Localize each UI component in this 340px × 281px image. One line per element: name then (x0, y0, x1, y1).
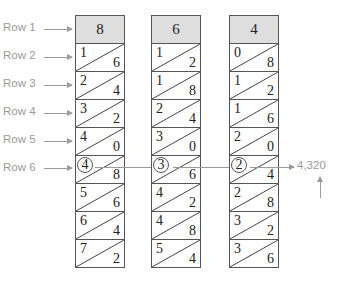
rod-cell: 08 (230, 44, 278, 72)
row-1-arrow-icon (44, 29, 72, 30)
rod-cell: 48 (152, 212, 200, 240)
ones-digit: 0 (189, 139, 196, 155)
circled-digit: 4 (77, 157, 93, 173)
tens-digit: 7 (80, 241, 87, 257)
tens-digit: 5 (156, 241, 163, 257)
ones-digit: 4 (267, 167, 274, 183)
tens-digit: 1 (156, 73, 163, 89)
tens-digit: 4 (80, 129, 87, 145)
row-6-reading-line (95, 167, 151, 168)
rod-cell: 24 (76, 72, 124, 100)
tens-digit: 3 (156, 157, 169, 173)
rod-cell: 36 (230, 240, 278, 267)
tens-digit: 3 (234, 241, 241, 257)
ones-digit: 6 (113, 195, 120, 211)
ones-digit: 4 (113, 223, 120, 239)
tens-digit: 4 (80, 157, 93, 173)
tens-digit: 1 (156, 45, 163, 61)
ones-digit: 8 (267, 195, 274, 211)
ones-digit: 6 (189, 167, 196, 183)
result-arrow-icon (250, 167, 294, 168)
row-label-6: Row 6 (3, 161, 36, 173)
ones-digit: 2 (113, 111, 120, 127)
circled-digit: 2 (231, 157, 247, 173)
rod-cell: 12 (152, 44, 200, 72)
ones-digit: 6 (267, 111, 274, 127)
rod-cell: 54 (152, 240, 200, 267)
ones-digit: 8 (267, 55, 274, 71)
ones-digit: 2 (267, 223, 274, 239)
rod-cell: 30 (152, 128, 200, 156)
row-2-arrow-icon (44, 57, 72, 58)
rod-cell: 28 (230, 184, 278, 212)
rod-cell: 20 (230, 128, 278, 156)
row-3-arrow-icon (44, 85, 72, 86)
row-6-reading-line (173, 167, 229, 168)
rod-cell-highlighted: 36 (152, 156, 200, 184)
rod-cell: 18 (152, 72, 200, 100)
row-6-arrow-icon (44, 168, 72, 169)
tens-digit: 1 (234, 73, 241, 89)
ones-digit: 8 (189, 83, 196, 99)
row-label-3: Row 3 (3, 77, 36, 89)
rod-cell: 12 (230, 72, 278, 100)
ones-digit: 0 (113, 139, 120, 155)
tens-digit: 0 (234, 45, 241, 61)
ones-digit: 8 (113, 167, 120, 183)
tens-digit: 1 (80, 45, 87, 61)
row-5-arrow-icon (44, 141, 72, 142)
napier-rod-4: 4 08 12 16 20 24 28 32 36 (229, 15, 279, 268)
tens-digit: 2 (156, 101, 163, 117)
tens-digit: 3 (234, 213, 241, 229)
tens-digit: 3 (156, 129, 163, 145)
ones-digit: 8 (189, 223, 196, 239)
rod-cell: 42 (152, 184, 200, 212)
tens-digit: 3 (80, 101, 87, 117)
ones-digit: 2 (113, 251, 120, 267)
rod-header: 4 (230, 16, 278, 44)
tens-digit: 1 (234, 101, 241, 117)
rod-header: 8 (76, 16, 124, 44)
ones-digit: 6 (267, 251, 274, 267)
ones-digit: 4 (189, 111, 196, 127)
product-result: 4,320 (297, 159, 326, 171)
rod-cell: 32 (230, 212, 278, 240)
up-arrow-icon (320, 178, 321, 198)
ones-digit: 0 (267, 139, 274, 155)
rod-header: 6 (152, 16, 200, 44)
row-label-5: Row 5 (3, 133, 36, 145)
tens-digit: 2 (234, 185, 241, 201)
rod-cell: 40 (76, 128, 124, 156)
ones-digit: 4 (113, 83, 120, 99)
row-label-4: Row 4 (3, 105, 36, 117)
napier-rod-6: 6 12 18 24 30 36 42 48 54 (151, 15, 201, 268)
row-label-1: Row 1 (3, 21, 36, 33)
tens-digit: 2 (80, 73, 87, 89)
rod-cell: 32 (76, 100, 124, 128)
rod-cell: 64 (76, 212, 124, 240)
napier-rod-8: 8 16 24 32 40 48 56 64 72 (75, 15, 125, 268)
tens-digit: 2 (234, 157, 247, 173)
row-4-arrow-icon (44, 113, 72, 114)
tens-digit: 5 (80, 185, 87, 201)
ones-digit: 2 (189, 195, 196, 211)
ones-digit: 4 (189, 251, 196, 267)
row-label-2: Row 2 (3, 49, 36, 61)
rod-cell: 72 (76, 240, 124, 267)
ones-digit: 6 (113, 55, 120, 71)
tens-digit: 4 (156, 213, 163, 229)
rod-cell-highlighted: 48 (76, 156, 124, 184)
ones-digit: 2 (267, 83, 274, 99)
tens-digit: 2 (234, 129, 241, 145)
rod-cell-highlighted: 24 (230, 156, 278, 184)
rod-cell: 16 (76, 44, 124, 72)
rod-cell: 16 (230, 100, 278, 128)
circled-digit: 3 (153, 157, 169, 173)
rod-cell: 56 (76, 184, 124, 212)
tens-digit: 4 (156, 185, 163, 201)
ones-digit: 2 (189, 55, 196, 71)
rod-cell: 24 (152, 100, 200, 128)
tens-digit: 6 (80, 213, 87, 229)
